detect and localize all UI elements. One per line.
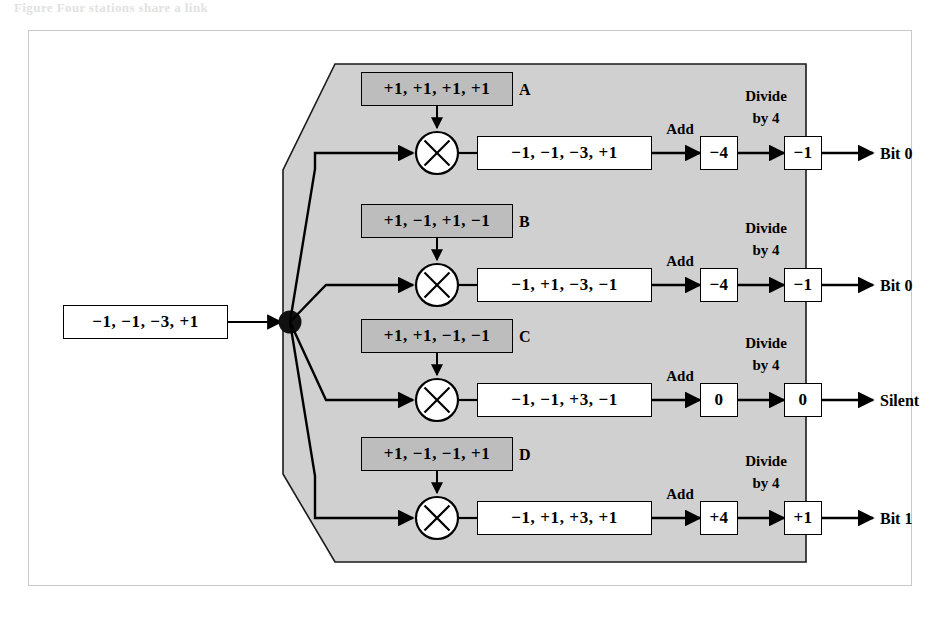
add-label-c: Add <box>658 368 702 385</box>
add-label-d: Add <box>658 486 702 503</box>
product-box-d: −1, +1, +3, +1 <box>477 501 652 535</box>
divide-label-d-line1: Divide <box>733 453 799 470</box>
code-box-a: +1, +1, +1, +1 <box>361 72 513 106</box>
code-box-c: +1, +1, −1, −1 <box>361 319 513 353</box>
divide-label-d-line2: by 4 <box>733 475 799 492</box>
input-signal-box: −1, −1, −3, +1 <box>63 305 228 339</box>
sum-box-d: +4 <box>700 501 738 535</box>
quotient-box-b: −1 <box>784 268 822 302</box>
code-box-d: +1, −1, −1, +1 <box>361 437 513 471</box>
divide-label-a-line2: by 4 <box>733 110 799 127</box>
code-letter-b: B <box>519 213 530 231</box>
code-letter-a: A <box>519 81 531 99</box>
code-letter-d: D <box>519 446 531 464</box>
divide-label-b-line2: by 4 <box>733 242 799 259</box>
sum-box-b: −4 <box>700 268 738 302</box>
add-label-b: Add <box>658 253 702 270</box>
add-label-a: Add <box>658 121 702 138</box>
code-letter-c: C <box>519 328 531 346</box>
sum-box-a: −4 <box>700 136 738 170</box>
sum-box-c: 0 <box>700 383 738 417</box>
output-label-d: Bit 1 <box>880 510 912 528</box>
product-box-c: −1, −1, +3, −1 <box>477 383 652 417</box>
output-label-a: Bit 0 <box>880 145 912 163</box>
quotient-box-a: −1 <box>784 136 822 170</box>
divide-label-c-line1: Divide <box>733 335 799 352</box>
output-label-b: Bit 0 <box>880 277 912 295</box>
divide-label-a-line1: Divide <box>733 88 799 105</box>
product-box-a: −1, −1, −3, +1 <box>477 136 652 170</box>
quotient-box-c: 0 <box>784 383 822 417</box>
divide-label-c-line2: by 4 <box>733 357 799 374</box>
output-label-c: Silent <box>880 392 919 410</box>
quotient-box-d: +1 <box>784 501 822 535</box>
code-box-b: +1, −1, +1, −1 <box>361 204 513 238</box>
figure-canvas: Figure Four stations share a link <box>0 0 948 620</box>
divide-label-b-line1: Divide <box>733 220 799 237</box>
product-box-b: −1, +1, −3, −1 <box>477 268 652 302</box>
